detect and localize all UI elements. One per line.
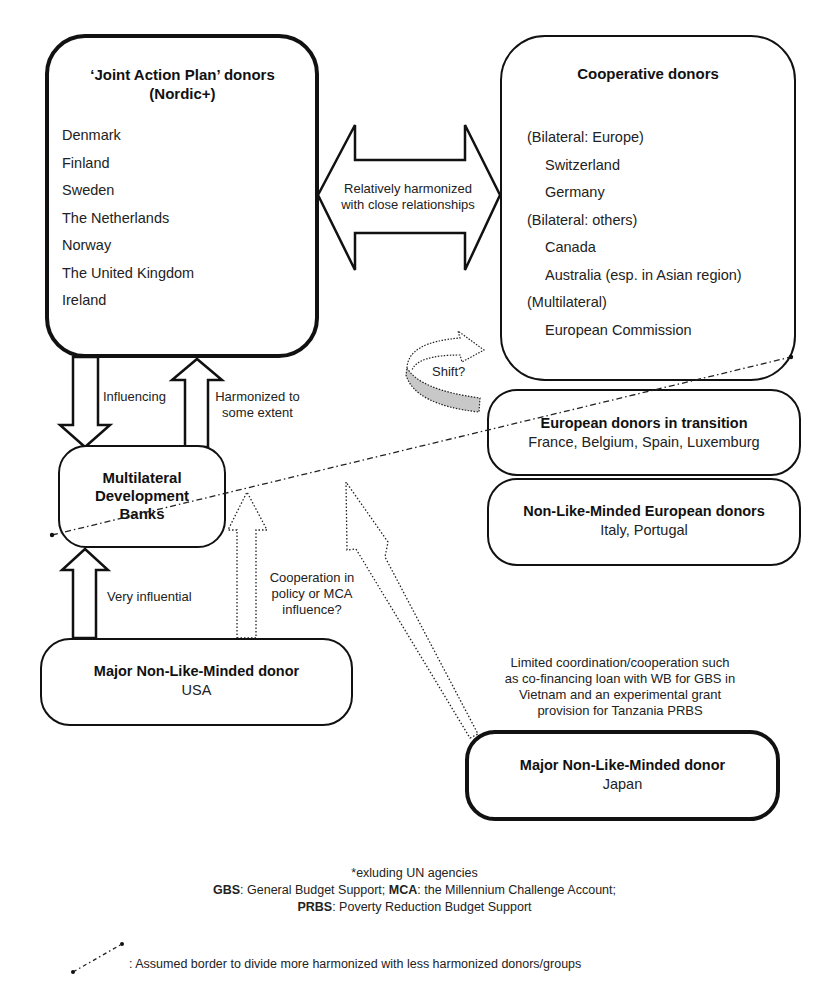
double-arrow-label-line1: Relatively harmonized [333, 181, 483, 197]
mdb-title-line3: Banks [58, 505, 226, 523]
cooperation-label-line3: influence? [262, 602, 362, 618]
footnote-abbreviations-1: GBS: General Budget Support; MCA: the Mi… [0, 882, 829, 899]
cooperative-group-heading: (Multilateral) [527, 289, 742, 317]
nordic-title: ‘Joint Action Plan’ donors (Nordic+) [50, 65, 315, 103]
cooperative-member: Switzerland [527, 152, 742, 180]
japan-note: Limited coordination/cooperation such as… [470, 655, 770, 719]
nordic-member: Sweden [62, 177, 194, 205]
japan-note-line4: provision for Tanzania PRBS [470, 703, 770, 719]
cooperative-member: Germany [527, 179, 742, 207]
nordic-member: Ireland [62, 287, 194, 315]
mca-abbr: MCA [389, 883, 417, 897]
transition-title: European donors in transition [487, 415, 801, 432]
mdb-title-line1: Multilateral [58, 469, 226, 487]
usa-member: USA [40, 682, 353, 699]
japan-member: Japan [465, 776, 780, 793]
usa-text: Major Non-Like-Minded donor USA [40, 663, 353, 699]
transition-text: European donors in transition France, Be… [487, 415, 801, 451]
usa-title: Major Non-Like-Minded donor [40, 663, 353, 680]
japan-note-line3: Vietnam and an experimental grant [470, 687, 770, 703]
prbs-text: : Poverty Reduction Budget Support [332, 900, 531, 914]
cooperative-member: Australia (esp. in Asian region) [527, 262, 742, 290]
harmonized-label: Harmonized to some extent [210, 389, 305, 421]
very-influential-arrow [62, 549, 108, 638]
non-like-minded-european-text: Non-Like-Minded European donors Italy, P… [487, 503, 801, 539]
non-like-minded-european-title: Non-Like-Minded European donors [487, 503, 801, 520]
nordic-member: The United Kingdom [62, 260, 194, 288]
nordic-title-line2: (Nordic+) [50, 84, 315, 103]
japan-title: Major Non-Like-Minded donor [465, 757, 780, 774]
nordic-member: Denmark [62, 122, 194, 150]
nordic-member: Finland [62, 150, 194, 178]
footnotes: *exluding UN agencies GBS: General Budge… [0, 865, 829, 916]
japan-note-line2: as co-financing loan with WB for GBS in [470, 671, 770, 687]
nordic-member: The Netherlands [62, 205, 194, 233]
gbs-text: : General Budget Support; [240, 883, 389, 897]
cooperation-label-line2: policy or MCA [262, 586, 362, 602]
legend-text: : Assumed border to divide more harmoniz… [129, 956, 581, 973]
cooperative-member-list: (Bilateral: Europe) Switzerland Germany … [527, 124, 742, 344]
mca-text: : the Millennium Challenge Account; [417, 883, 616, 897]
cooperation-label-line1: Cooperation in [262, 570, 362, 586]
harmonized-label-line2: some extent [210, 405, 305, 421]
cooperative-member: European Commission [527, 317, 742, 345]
japan-text: Major Non-Like-Minded donor Japan [465, 757, 780, 793]
cooperative-member: Canada [527, 234, 742, 262]
footnote-abbreviations-2: PRBS: Poverty Reduction Budget Support [0, 899, 829, 916]
japan-cooperation-arrow [346, 482, 478, 738]
cooperative-title: Cooperative donors [500, 65, 796, 82]
very-influential-label: Very influential [107, 589, 192, 605]
double-arrow-label-line2: with close relationships [333, 197, 483, 213]
nordic-member: Norway [62, 232, 194, 260]
cooperation-label: Cooperation in policy or MCA influence? [262, 570, 362, 618]
prbs-abbr: PRBS [297, 900, 332, 914]
mdb-title-line2: Development [58, 487, 226, 505]
mdb-title: Multilateral Development Banks [58, 469, 226, 523]
harmonized-label-line1: Harmonized to [210, 389, 305, 405]
cooperative-group-heading: (Bilateral: Europe) [527, 124, 742, 152]
nordic-title-line1: ‘Joint Action Plan’ donors [50, 65, 315, 84]
footnote-exclusion: *exluding UN agencies [0, 865, 829, 882]
nordic-member-list: Denmark Finland Sweden The Netherlands N… [62, 122, 194, 315]
japan-note-line1: Limited coordination/cooperation such [470, 655, 770, 671]
shift-label: Shift? [432, 364, 465, 380]
influencing-label: Influencing [103, 389, 166, 405]
non-like-minded-european-members: Italy, Portugal [487, 522, 801, 539]
double-arrow-label: Relatively harmonized with close relatio… [333, 181, 483, 213]
gbs-abbr: GBS [213, 883, 240, 897]
transition-members: France, Belgium, Spain, Luxemburg [487, 434, 801, 451]
cooperative-group-heading: (Bilateral: others) [527, 207, 742, 235]
